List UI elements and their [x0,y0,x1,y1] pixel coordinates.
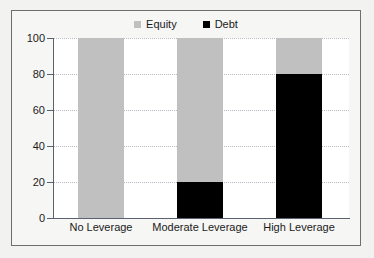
bar-segment-equity[interactable] [177,38,223,182]
legend-label-debt: Debt [215,19,238,30]
legend-entry-debt: Debt [203,19,238,30]
y-axis-tick-label: 60 [15,105,45,116]
y-axis-line [53,38,54,219]
chart-legend: Equity Debt [12,15,360,33]
x-axis-tick-label-moderate-leverage: Moderate Leverage [152,221,247,234]
bar-group-no-leverage[interactable] [78,38,124,218]
plot-area [53,38,349,218]
x-axis-tick-label-high-leverage: High Leverage [263,221,335,234]
bar-segment-debt[interactable] [177,182,223,218]
bar-segment-equity[interactable] [276,38,322,74]
legend-swatch-equity-icon [134,21,141,28]
y-axis-tick-label: 100 [15,33,45,44]
y-axis-tick-label: 40 [15,141,45,152]
legend-label-equity: Equity [146,19,177,30]
bar-group-high-leverage[interactable] [276,38,322,218]
bar-segment-equity[interactable] [78,38,124,218]
x-axis-tick-label-no-leverage: No Leverage [70,221,133,234]
y-axis-tick-label: 20 [15,177,45,188]
bar-segment-debt[interactable] [276,74,322,218]
y-axis-tick-label: 80 [15,69,45,80]
y-axis-tick-label: 0 [15,213,45,224]
chart-frame: Equity Debt 100 80 60 40 20 0 [11,10,361,246]
legend-swatch-debt-icon [203,21,210,28]
x-axis-line [53,218,350,219]
y-axis-tick-labels: 100 80 60 40 20 0 [12,11,45,245]
bar-group-moderate-leverage[interactable] [177,38,223,218]
x-axis-tick-labels: No Leverage Moderate Leverage High Lever… [53,221,350,239]
legend-entry-equity: Equity [134,19,177,30]
